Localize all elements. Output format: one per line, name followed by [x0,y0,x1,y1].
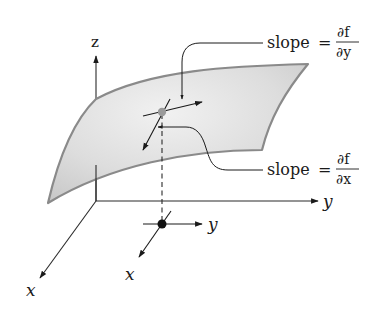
base-point-axes: y x [125,211,218,284]
slope-x-denominator: ∂x [336,171,351,187]
slope-y-equals: = [318,33,331,52]
base-x-arrow [139,211,171,257]
y-axis-label: y [322,191,333,211]
label-slope-y: slope = ∂f ∂y [267,24,359,60]
y-axis: y [96,191,333,211]
partial-derivative-diagram: z y x y x slope = ∂f ∂y [0,0,392,312]
surface [48,64,308,203]
base-y-label: y [207,214,218,234]
z-axis-label: z [91,33,99,51]
surface-point [158,108,166,116]
base-point [158,220,167,229]
slope-y-denominator: ∂y [336,44,351,60]
slope-x-equals: = [318,160,331,179]
x-axis-line [40,201,96,278]
slope-x-word: slope [267,160,310,179]
slope-x-numerator: ∂f [337,151,351,167]
base-x-label: x [125,264,135,284]
slope-y-numerator: ∂f [337,24,351,40]
x-axis-label: x [26,280,36,300]
slope-y-word: slope [267,33,310,52]
x-axis: x [26,201,96,300]
label-slope-x: slope = ∂f ∂x [267,151,359,187]
